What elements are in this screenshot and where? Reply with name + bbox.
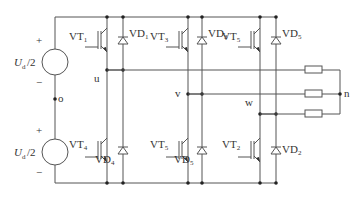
svg-text:VD4: VD4 — [95, 153, 115, 167]
svg-text:VD2: VD2 — [282, 143, 302, 157]
phase-u-label: u — [94, 72, 100, 84]
svg-text:VD1: VD1 — [129, 27, 149, 41]
svg-text:VD5: VD5 — [174, 153, 194, 167]
igbt-upper-1 — [85, 28, 107, 52]
svg-text:−: − — [36, 166, 42, 178]
load-resistor-u — [305, 66, 322, 73]
igbt-upper-2 — [166, 28, 188, 52]
diode-upper-1 — [118, 37, 128, 44]
svg-text:d: d — [22, 63, 26, 71]
igbt-lower-3 — [238, 138, 260, 162]
midpoint-label: o — [58, 92, 64, 104]
svg-text:VT1: VT1 — [69, 30, 88, 44]
svg-text:d: d — [22, 153, 26, 161]
neutral-label: n — [344, 87, 350, 99]
svg-text:VT3: VT3 — [150, 30, 169, 44]
svg-text:VT5: VT5 — [150, 138, 169, 152]
phase-v-label: v — [175, 87, 181, 99]
phase-w-label: w — [245, 96, 253, 108]
diode-upper-3 — [271, 37, 281, 44]
svg-text:/2: /2 — [27, 56, 36, 68]
svg-text:VT5: VT5 — [222, 30, 241, 44]
svg-text:−: − — [36, 76, 42, 88]
inverter-circuit: + − U d /2 + − U d /2 o VT1VD1VT4VD4VT3V… — [0, 0, 360, 201]
load-resistor-w — [305, 110, 322, 117]
svg-text:VT4: VT4 — [69, 138, 88, 152]
diode-lower-2 — [197, 147, 207, 154]
load-resistor-v — [305, 90, 322, 97]
diode-lower-3 — [271, 147, 281, 154]
diode-lower-1 — [118, 147, 128, 154]
neutral-node — [338, 92, 342, 96]
svg-text:VT2: VT2 — [222, 138, 241, 152]
igbt-upper-3 — [238, 28, 260, 52]
svg-text:+: + — [36, 124, 42, 136]
diode-upper-2 — [197, 37, 207, 44]
midpoint-node — [53, 97, 57, 101]
dc-source-upper: + − U d /2 — [14, 34, 68, 88]
svg-text:VD5: VD5 — [282, 27, 302, 41]
dc-source-lower: + − U d /2 — [14, 124, 68, 178]
svg-text:/2: /2 — [27, 146, 36, 158]
svg-text:+: + — [36, 34, 42, 46]
